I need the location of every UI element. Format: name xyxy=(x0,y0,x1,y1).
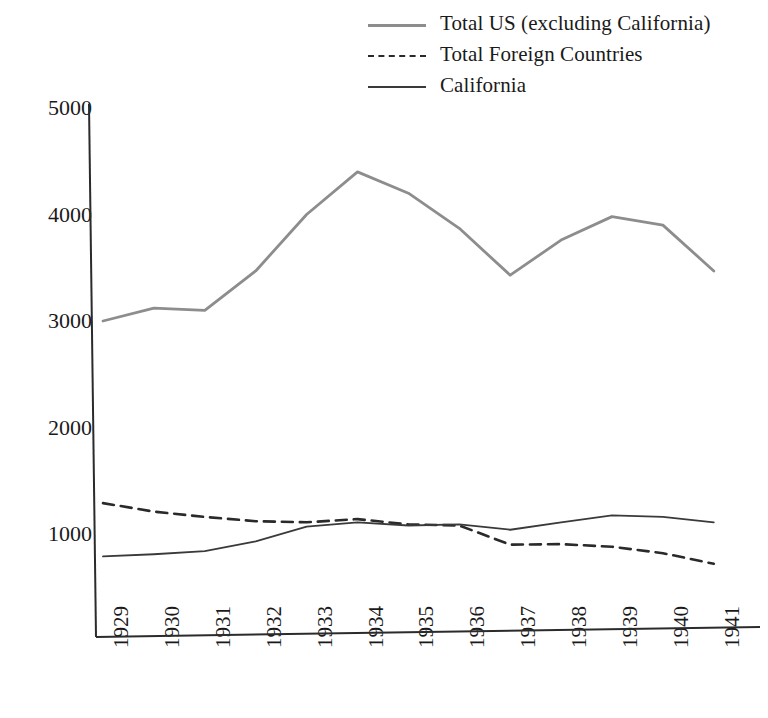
line-chart-figure: Total US (excluding California) Total Fo… xyxy=(0,0,768,718)
series-line-total-foreign-countries xyxy=(103,503,714,564)
series-line-california xyxy=(103,515,714,556)
plot-area xyxy=(0,0,768,718)
axis-lines xyxy=(89,104,760,637)
data-series-layer xyxy=(103,172,714,564)
y-axis-line xyxy=(89,104,96,637)
series-line-total-us-excluding-california xyxy=(103,172,714,321)
x-axis-line xyxy=(96,627,760,637)
